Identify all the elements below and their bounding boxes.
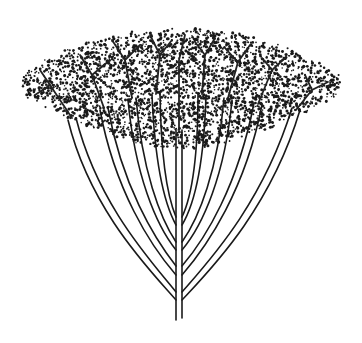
tree-illustration bbox=[0, 0, 362, 343]
